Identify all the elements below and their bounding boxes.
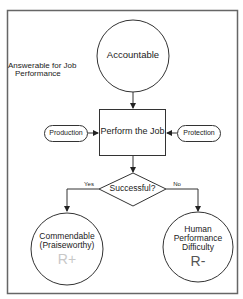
edge-yes	[67, 189, 99, 211]
production-label: Production	[44, 129, 88, 136]
decision-label: Successful?	[99, 184, 166, 193]
edge-no	[166, 189, 198, 211]
no-label: No	[170, 181, 184, 187]
r-plus-symbol: R+	[31, 252, 103, 267]
r-minus-symbol: R-	[163, 254, 233, 269]
difficulty-label: Human Performance Difficulty R-	[163, 225, 233, 268]
yes-label: Yes	[82, 181, 96, 187]
accountable-label: Accountable	[97, 50, 169, 60]
difficulty-line-3: Difficulty	[163, 243, 233, 252]
protection-label: Protection	[177, 129, 221, 136]
side-note-line-2: Performance	[8, 70, 88, 78]
commendable-label: Commendable (Praiseworthy) R+	[31, 232, 103, 267]
commendable-line-2: (Praiseworthy)	[31, 241, 103, 250]
side-note: Answerable for Job Performance	[8, 62, 88, 79]
perform-job-label: Perform the Job	[99, 127, 166, 136]
